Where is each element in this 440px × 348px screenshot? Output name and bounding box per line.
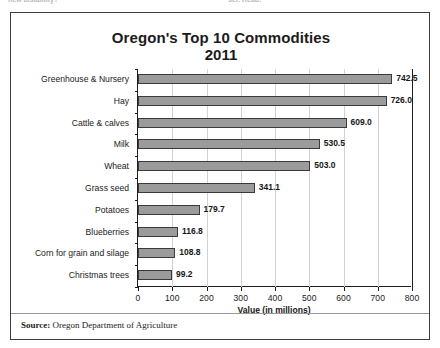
y-axis-tick: [135, 69, 139, 70]
bar-value-label: 179.7: [204, 204, 225, 214]
bar-row: 503.0: [138, 156, 412, 178]
y-axis-tick: [135, 200, 139, 201]
category-label-row: Grass seed: [11, 178, 133, 200]
bar: [138, 183, 255, 193]
x-axis-tick-label: 700: [371, 293, 385, 303]
truncated-page-text-strip: new disability? ser. Read:: [0, 0, 440, 10]
x-axis-tick: [412, 287, 413, 291]
bar-row: 116.8: [138, 222, 412, 244]
gridline: [412, 69, 413, 287]
bar: [138, 139, 320, 149]
bar-value-label: 742.5: [396, 73, 417, 83]
bar-value-label: 116.8: [182, 226, 203, 236]
bar-value-label: 530.5: [324, 138, 345, 148]
y-axis-tick: [135, 156, 139, 157]
x-axis-tick-label: 800: [405, 293, 419, 303]
category-label: Blueberries: [86, 227, 129, 238]
category-label-row: Corn for grain and silage: [11, 243, 133, 265]
bar-row: 179.7: [138, 200, 412, 222]
category-axis-labels: Greenhouse & NurseryHayCattle & calvesMi…: [11, 69, 133, 287]
bar-row: 108.8: [138, 243, 412, 265]
x-axis-tick-label: 600: [336, 293, 350, 303]
y-axis-tick: [135, 178, 139, 179]
bar-value-label: 609.0: [351, 117, 372, 127]
bar-row: 742.5: [138, 69, 412, 91]
x-axis-tick: [275, 287, 276, 291]
x-axis-tick-label: 500: [302, 293, 316, 303]
category-label: Potatoes: [95, 205, 129, 216]
chart-figure-container: Oregon's Top 10 Commodities 2011 Greenho…: [10, 12, 430, 340]
y-axis-tick: [135, 113, 139, 114]
category-label: Corn for grain and silage: [35, 248, 129, 259]
category-label: Milk: [114, 139, 129, 150]
bar-row: 726.0: [138, 91, 412, 113]
bar-value-label: 108.8: [179, 247, 200, 257]
bar: [138, 248, 175, 258]
y-axis-tick: [135, 265, 139, 266]
category-label-row: Wheat: [11, 156, 133, 178]
bar-value-label: 99.2: [176, 269, 193, 279]
x-axis-tick-label: 100: [165, 293, 179, 303]
y-axis-tick: [135, 222, 139, 223]
category-label: Wheat: [104, 161, 129, 172]
bar-value-label: 503.0: [314, 160, 335, 170]
x-axis-tick-label: 0: [136, 293, 141, 303]
category-label-row: Cattle & calves: [11, 113, 133, 135]
category-label-row: Christmas trees: [11, 265, 133, 287]
bar-value-label: 726.0: [391, 95, 412, 105]
y-axis-tick: [135, 134, 139, 135]
x-axis-tick: [172, 287, 173, 291]
truncated-text-left: new disability?: [8, 0, 58, 3]
x-axis-tick: [344, 287, 345, 291]
bar: [138, 161, 310, 171]
bar: [138, 74, 392, 84]
bar-row: 530.5: [138, 134, 412, 156]
y-axis-tick: [135, 287, 139, 288]
source-value: Oregon Department of Agriculture: [53, 320, 178, 330]
category-label-row: Hay: [11, 91, 133, 113]
x-axis-tick: [378, 287, 379, 291]
source-label: Source:: [21, 320, 50, 330]
category-label-row: Potatoes: [11, 200, 133, 222]
bar-row: 99.2: [138, 265, 412, 287]
x-axis-tick-label: 400: [268, 293, 282, 303]
y-axis-tick: [135, 243, 139, 244]
bar: [138, 205, 200, 215]
bar: [138, 227, 178, 237]
plot-area: 0100200300400500600700800742.5726.0609.0…: [137, 69, 411, 287]
category-label-row: Greenhouse & Nursery: [11, 69, 133, 91]
source-note: Source: Oregon Department of Agriculture: [21, 320, 177, 330]
x-axis-tick: [207, 287, 208, 291]
category-label: Grass seed: [85, 183, 129, 194]
chart-title: Oregon's Top 10 Commodities: [11, 29, 431, 46]
bar-row: 609.0: [138, 113, 412, 135]
category-label: Greenhouse & Nursery: [41, 74, 129, 85]
category-label-row: Milk: [11, 134, 133, 156]
chart-subtitle-year: 2011: [11, 46, 431, 63]
x-axis-tick: [309, 287, 310, 291]
bar-value-label: 341.1: [259, 182, 280, 192]
bar: [138, 96, 387, 106]
x-axis-tick-label: 300: [234, 293, 248, 303]
bar-row: 341.1: [138, 178, 412, 200]
footer-divider: [11, 313, 429, 314]
x-axis-tick: [241, 287, 242, 291]
category-label: Cattle & calves: [72, 118, 129, 129]
truncated-text-right: ser. Read:: [228, 0, 261, 3]
x-axis-tick: [138, 287, 139, 291]
bar: [138, 118, 347, 128]
x-axis-tick-label: 200: [199, 293, 213, 303]
category-label: Christmas trees: [69, 270, 129, 281]
y-axis-tick: [135, 91, 139, 92]
bar: [138, 270, 172, 280]
category-label: Hay: [114, 96, 129, 107]
category-label-row: Blueberries: [11, 222, 133, 244]
